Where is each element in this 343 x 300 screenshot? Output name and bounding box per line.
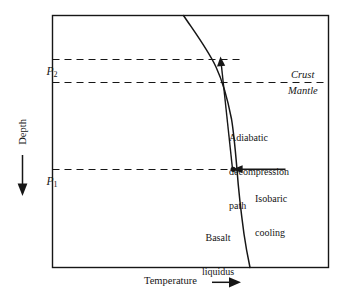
- depth-axis-arrow: [18, 155, 28, 196]
- basalt-liquidus-diagram: P2 P1 Crust Mantle Adiabatic decompressi…: [0, 0, 343, 300]
- isobaric-cooling-annotation: Isobaric cooling: [255, 171, 287, 261]
- liquidus-line-1: Basalt: [195, 232, 241, 243]
- p1-tick-label: P1: [35, 162, 58, 201]
- basalt-liquidus-annotation: Basalt liquidus: [195, 210, 241, 300]
- crust-label: Crust: [291, 69, 314, 81]
- mantle-label: Mantle: [288, 85, 318, 97]
- depth-axis-label: Depth: [17, 116, 29, 148]
- isobaric-line-1: Isobaric: [255, 193, 287, 204]
- isobaric-line-2: cooling: [255, 227, 287, 238]
- diagram-canvas: [0, 0, 343, 300]
- temperature-axis-label: Temperature: [144, 275, 197, 287]
- adiabatic-line-1: Adiabatic: [229, 132, 289, 143]
- liquidus-line-2: liquidus: [195, 266, 241, 277]
- p2-tick-label: P2: [35, 52, 58, 91]
